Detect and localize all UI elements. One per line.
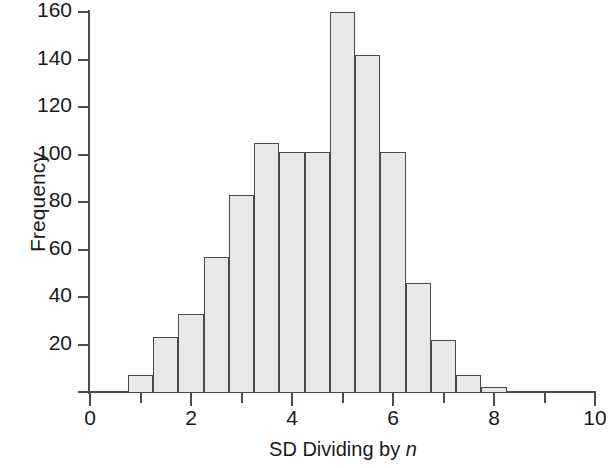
histogram-bar: [456, 375, 481, 393]
y-axis-tick: [78, 344, 89, 346]
y-axis-tick-label: 40: [0, 283, 72, 307]
histogram-bar: [153, 337, 178, 393]
x-axis-minor-tick: [241, 393, 243, 403]
x-axis-tick-label: 10: [565, 406, 614, 430]
x-axis-major-tick: [291, 393, 293, 406]
y-axis-tick-label: 60: [0, 236, 72, 260]
y-axis-tick: [78, 154, 89, 156]
x-axis-label-italic: n: [406, 438, 417, 460]
x-axis-label: SD Dividing by n: [90, 438, 596, 461]
y-axis-tick-label: 80: [0, 188, 72, 212]
x-axis-tick-label: 2: [161, 406, 221, 430]
histogram-bar: [431, 340, 456, 393]
x-axis-major-tick: [89, 393, 91, 406]
x-axis-label-text: SD Dividing by: [269, 438, 406, 460]
histogram-bar: [330, 12, 355, 393]
y-axis-tick-label: 160: [0, 0, 72, 22]
y-axis-tick: [78, 11, 89, 13]
x-axis-minor-tick: [140, 393, 142, 403]
x-axis-minor-tick: [443, 393, 445, 403]
histogram-bar: [204, 257, 229, 393]
y-axis-tick-label: 140: [0, 46, 72, 70]
histogram-bar: [229, 195, 254, 393]
histogram-bar: [406, 283, 431, 393]
y-axis-tick: [78, 201, 89, 203]
y-axis-tick: [78, 296, 89, 298]
x-axis-minor-tick: [342, 393, 344, 403]
histogram-bar: [355, 55, 380, 393]
x-axis-tick-label: 0: [60, 406, 120, 430]
y-axis-tick-label: 20: [0, 331, 72, 355]
x-axis-tick-label: 8: [464, 406, 524, 430]
histogram-bar: [254, 143, 279, 393]
x-axis-major-tick: [190, 393, 192, 406]
x-axis-major-tick: [392, 393, 394, 406]
y-axis-tick-label: 100: [0, 141, 72, 165]
histogram-bar: [481, 387, 506, 393]
x-axis-major-tick: [594, 393, 596, 406]
y-axis-tick: [78, 59, 89, 61]
histogram-bar: [305, 152, 330, 393]
histogram-bar: [178, 314, 203, 393]
y-axis-origin-tick: [78, 391, 89, 393]
y-axis-tick: [78, 106, 89, 108]
y-axis-tick-label: 120: [0, 93, 72, 117]
histogram-bar: [279, 152, 304, 393]
x-axis-major-tick: [493, 393, 495, 406]
histogram-figure: Frequency SD Dividing by n 2040608010012…: [0, 0, 614, 468]
histogram-bar: [380, 152, 405, 393]
x-axis-minor-tick: [544, 393, 546, 403]
x-axis-tick-label: 6: [363, 406, 423, 430]
x-axis-tick-label: 4: [262, 406, 322, 430]
y-axis-tick: [78, 249, 89, 251]
histogram-bar: [128, 375, 153, 393]
